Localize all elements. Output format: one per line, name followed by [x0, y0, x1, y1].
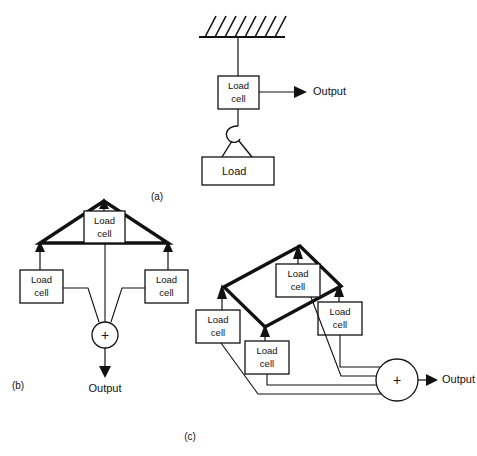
plus-label-c: +	[393, 372, 401, 388]
signal-wire-b-left	[63, 288, 99, 322]
load-cell-label-c-right-line1: Load	[329, 306, 350, 317]
load-cell-label-b-right-line2: cell	[159, 287, 173, 298]
output-arrow-c	[426, 374, 438, 386]
load-cell-label-b-left-line2: cell	[34, 287, 48, 298]
part-a-group: Load cell Output Load (a)	[151, 16, 346, 202]
plus-label-b: +	[101, 327, 109, 343]
ceiling-support-icon	[199, 16, 286, 37]
load-cell-label-c-top-line1: Load	[287, 268, 308, 279]
load-cell-label-c-top-line2: cell	[291, 281, 305, 292]
hook-icon	[222, 126, 252, 157]
part-b-group: Load cell Load cell Load cell	[12, 198, 188, 394]
output-arrow-a	[294, 86, 307, 98]
output-label-b: Output	[88, 382, 121, 394]
load-label-a: Load	[222, 165, 246, 177]
part-c-caption: (c)	[184, 431, 196, 442]
load-cell-label-b-left-line1: Load	[31, 274, 52, 285]
load-cell-label-a-line1: Load	[228, 80, 249, 91]
load-cell-label-a-line2: cell	[231, 93, 245, 104]
load-cell-label-b-right-line1: Load	[156, 274, 177, 285]
load-cell-label-c-left-line1: Load	[207, 314, 228, 325]
load-cell-label-b-apex-line1: Load	[94, 215, 115, 226]
output-arrow-b	[99, 366, 111, 378]
output-label-c: Output	[442, 373, 475, 385]
part-c-group: Load cell Load cell Load cell Load cell	[184, 244, 475, 442]
part-b-caption: (b)	[12, 380, 24, 391]
figure-canvas: Load cell Output Load (a)	[0, 0, 477, 456]
load-cell-label-c-bottom-line1: Load	[256, 345, 277, 356]
load-cell-label-b-apex-line2: cell	[97, 228, 111, 239]
signal-wire-b-right	[111, 288, 145, 322]
load-cell-label-c-bottom-line2: cell	[260, 358, 274, 369]
load-cell-label-c-right-line2: cell	[333, 319, 347, 330]
part-a-caption: (a)	[151, 191, 163, 202]
output-label-a: Output	[313, 85, 346, 97]
load-cell-diagram: Load cell Output Load (a)	[0, 0, 477, 456]
load-cell-label-c-left-line2: cell	[211, 327, 225, 338]
